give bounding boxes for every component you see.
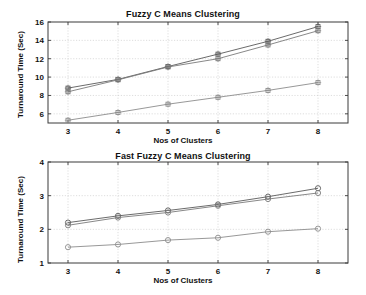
svg-text:7: 7 — [266, 267, 271, 276]
svg-text:10: 10 — [35, 73, 44, 82]
svg-text:6: 6 — [216, 267, 221, 276]
chart-panel-fast-fuzzy-c-means: Fast Fuzzy C Means Clustering Turnaround… — [0, 145, 366, 295]
plot-area-top: 3456786810121416 — [0, 0, 366, 150]
svg-text:7: 7 — [266, 127, 271, 136]
svg-text:5: 5 — [166, 127, 171, 136]
svg-text:3: 3 — [40, 192, 45, 201]
svg-text:2: 2 — [40, 225, 45, 234]
svg-text:1: 1 — [40, 259, 45, 268]
chart-panel-fuzzy-c-means: Fuzzy C Means Clustering Turnaround Time… — [0, 0, 366, 150]
svg-text:8: 8 — [40, 91, 45, 100]
plot-area-bottom: 3456781234 — [0, 145, 366, 295]
svg-text:4: 4 — [116, 267, 121, 276]
svg-text:12: 12 — [35, 55, 44, 64]
svg-text:4: 4 — [116, 127, 121, 136]
svg-text:16: 16 — [35, 18, 44, 27]
svg-text:3: 3 — [66, 267, 71, 276]
svg-text:6: 6 — [40, 110, 45, 119]
svg-text:8: 8 — [316, 267, 321, 276]
svg-text:5: 5 — [166, 267, 171, 276]
svg-text:8: 8 — [316, 127, 321, 136]
figure-container: Fuzzy C Means Clustering Turnaround Time… — [0, 0, 366, 295]
svg-text:4: 4 — [40, 158, 45, 167]
svg-text:6: 6 — [216, 127, 221, 136]
svg-text:3: 3 — [66, 127, 71, 136]
svg-text:14: 14 — [35, 36, 44, 45]
